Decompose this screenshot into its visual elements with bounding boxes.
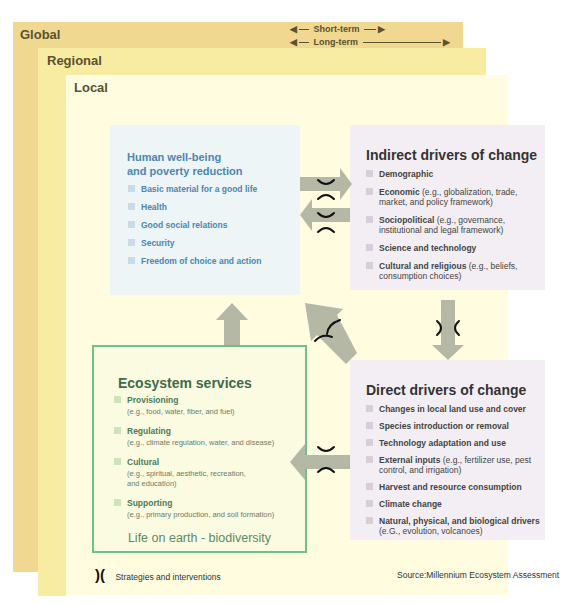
arrow-down-icon bbox=[432, 300, 464, 360]
intervention-icon bbox=[455, 321, 459, 335]
source-credit: Source:Millennium Ecosystem Assessment bbox=[397, 570, 559, 580]
intervention-icon bbox=[318, 228, 334, 232]
arrow-left-icon bbox=[300, 199, 350, 231]
arrow-diagonal-icon bbox=[305, 303, 357, 364]
legend: )( Strategies and interventions bbox=[95, 567, 221, 582]
legend-label: Strategies and interventions bbox=[115, 572, 220, 582]
intervention-icon bbox=[437, 321, 441, 335]
intervention-icon bbox=[318, 447, 334, 451]
intervention-symbol-icon: )( bbox=[95, 566, 105, 583]
intervention-icon bbox=[318, 195, 334, 199]
arrows-layer bbox=[0, 0, 580, 605]
arrow-up-icon bbox=[216, 303, 248, 345]
